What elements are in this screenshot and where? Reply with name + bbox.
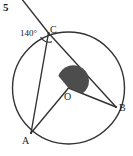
central-angle-shaded-at-o xyxy=(58,65,89,93)
geometry-figure: 5 140° C O A B xyxy=(0,0,133,156)
geometry-diagram-canvas xyxy=(0,0,133,156)
chord-ca xyxy=(31,33,49,133)
problem-number: 5 xyxy=(3,1,9,13)
radius-oa xyxy=(31,88,69,133)
point-label-c: C xyxy=(50,25,57,35)
point-label-o: O xyxy=(64,92,71,102)
vertex-dot-b xyxy=(115,106,117,108)
angle-label-at-c: 140° xyxy=(20,29,37,38)
point-label-a: A xyxy=(22,136,29,146)
point-label-b: B xyxy=(119,103,126,113)
vertex-dot-a xyxy=(30,132,32,134)
